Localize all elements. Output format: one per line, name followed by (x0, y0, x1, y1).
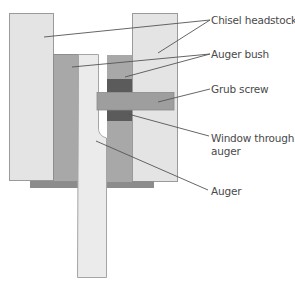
label-grub-screw: Grub screw (211, 83, 269, 95)
label-auger: Auger (211, 185, 241, 197)
label-chisel-headstock: Chisel headstock (211, 14, 295, 26)
chisel-headstock-left (10, 14, 54, 181)
bush-dark-band-upper (107, 79, 132, 92)
label-auger-bush: Auger bush (211, 48, 269, 60)
label-window-through-auger-line1: Window through (211, 132, 294, 144)
bush-dark-band-lower (107, 110, 132, 121)
label-window-through-auger-line2: auger (211, 145, 241, 157)
auger-bush-left (54, 55, 79, 182)
leader-chisel-headstock-1 (44, 20, 210, 37)
